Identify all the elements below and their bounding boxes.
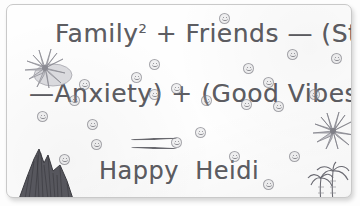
smiley-face-stamp-icon <box>263 77 274 88</box>
smiley-face-stamp-icon <box>219 13 230 24</box>
smiley-face-stamp-icon <box>171 83 182 94</box>
smiley-face-stamp-icon <box>131 72 142 83</box>
photo-of-handwritten-note: Family2 + Friends — (Stress —Anxiety) + … <box>0 0 360 206</box>
smiley-face-stamp-icon <box>273 101 284 112</box>
superscript-two: 2 <box>138 21 147 36</box>
palm-trees-icon <box>303 161 352 198</box>
smiley-face-stamp-icon <box>331 53 342 64</box>
smiley-face-stamp-icon <box>241 99 252 110</box>
equals-sign-icon <box>131 138 177 152</box>
smiley-face-stamp-icon <box>289 151 300 162</box>
note-board: Family2 + Friends — (Stress —Anxiety) + … <box>6 4 352 198</box>
smiley-face-stamp-icon <box>37 111 48 122</box>
mountain-icon <box>17 141 83 198</box>
smiley-face-stamp-icon <box>195 127 206 138</box>
smiley-face-stamp-icon <box>243 63 254 74</box>
smiley-face-stamp-icon <box>201 95 212 106</box>
smiley-face-stamp-icon <box>79 79 90 90</box>
smiley-face-stamp-icon <box>149 89 160 100</box>
handwritten-line-1: Family2 + Friends — (Stress <box>55 19 352 48</box>
smiley-face-stamp-icon <box>149 59 160 70</box>
smiley-face-stamp-icon <box>309 89 320 100</box>
smiley-face-stamp-icon <box>87 119 98 130</box>
smiley-face-stamp-icon <box>229 151 240 162</box>
smiley-face-stamp-icon <box>91 139 102 150</box>
line-1-remainder: + Friends — (Stress <box>147 19 352 48</box>
lotus-flower-left-icon <box>19 45 75 91</box>
smiley-face-stamp-icon <box>287 49 298 60</box>
smiley-face-stamp-icon <box>59 154 70 165</box>
smiley-face-stamp-icon <box>263 179 274 190</box>
smiley-face-stamp-icon <box>171 137 182 148</box>
lotus-flower-right-icon <box>309 109 352 151</box>
word-family: Family <box>55 19 138 48</box>
smiley-face-stamp-icon <box>69 95 80 106</box>
